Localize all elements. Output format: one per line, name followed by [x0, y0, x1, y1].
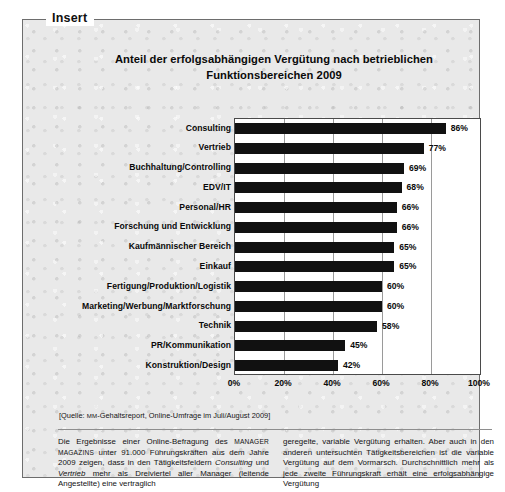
category-label: PR/Kommunikation	[46, 340, 231, 350]
body-left-italic-consulting: Consulting	[215, 458, 252, 467]
chart-bar	[235, 301, 382, 312]
category-label: Kaufmännischer Bereich	[46, 241, 231, 251]
chart-bar-row: 65%	[235, 257, 480, 277]
chart-card: Anteil der erfolgsabhängigen Vergütung n…	[46, 40, 502, 411]
body-text-columns: Die Ergebnisse einer Online-Befragung de…	[58, 437, 494, 490]
chart-bar-value-label: 66%	[402, 221, 419, 233]
chart-bar-row: 69%	[235, 159, 480, 179]
body-left-italic-vertrieb: Vertrieb	[58, 469, 85, 478]
chart-plot-area: 86%77%69%68%66%66%65%65%60%60%58%45%42%	[234, 118, 481, 375]
chart-bar	[235, 321, 377, 332]
chart-bar-value-label: 65%	[399, 241, 416, 253]
chart-bar-value-label: 45%	[350, 339, 367, 351]
body-text-right-column: geregelte, variable Vergütung erhalten. …	[283, 437, 494, 490]
chart-plot-wrapper: ConsultingVertriebBuchhaltung/Controllin…	[46, 98, 502, 398]
body-right-paragraph: geregelte, variable Vergütung erhalten. …	[283, 437, 494, 490]
category-label: Technik	[46, 320, 231, 330]
body-left-part4: mehr als Dreiviertel aller Manager (leit…	[58, 469, 269, 489]
chart-bar-value-label: 86%	[451, 122, 468, 134]
chart-bar-value-label: 68%	[407, 181, 424, 193]
chart-bar-value-label: 69%	[409, 162, 426, 174]
chart-bar-value-label: 58%	[382, 320, 399, 332]
chart-bar-row: 42%	[235, 356, 480, 376]
chart-title: Anteil der erfolgsabhängigen Vergütung n…	[46, 40, 502, 83]
source-prefix: [Quelle:	[59, 411, 87, 420]
chart-bar	[235, 123, 446, 134]
chart-bar	[235, 281, 382, 292]
section-divider	[58, 429, 492, 430]
category-label: Fertigung/Produktion/Logistik	[46, 281, 231, 291]
chart-bar-value-label: 60%	[387, 280, 404, 292]
chart-bar	[235, 242, 394, 253]
category-label: Einkauf	[46, 261, 231, 271]
insert-legend-label: Insert	[46, 11, 94, 26]
chart-bar-value-label: 42%	[343, 359, 360, 371]
chart-bar	[235, 143, 424, 154]
body-left-part3: und	[252, 458, 269, 467]
x-axis-tick-label: 100%	[468, 378, 490, 388]
chart-bar-row: 68%	[235, 178, 480, 198]
chart-title-line2: Funktionsbereichen 2009	[82, 68, 466, 84]
chart-bar-value-label: 60%	[387, 300, 404, 312]
body-text-left-column: Die Ergebnisse einer Online-Befragung de…	[58, 437, 269, 490]
source-publication: MM	[87, 412, 97, 419]
category-label: Forschung und Entwicklung	[46, 221, 231, 231]
chart-bar-row: 60%	[235, 277, 480, 297]
source-note: [Quelle: MM-Gehaltsreport, Online-Umfrag…	[59, 411, 270, 421]
chart-bar-row: 66%	[235, 198, 480, 218]
x-axis-tick-label: 20%	[274, 378, 291, 388]
x-axis-tick-label: 0%	[228, 378, 240, 388]
insert-frame: Anteil der erfolgsabhängigen Vergütung n…	[22, 19, 480, 478]
chart-bar	[235, 222, 397, 233]
category-label: Buchhaltung/Controlling	[46, 162, 231, 172]
chart-bar	[235, 202, 397, 213]
x-axis-tick-label: 60%	[372, 378, 389, 388]
chart-bar-value-label: 77%	[429, 142, 446, 154]
x-axis-ticks: 0%20%40%60%80%100%	[234, 376, 481, 392]
chart-bar-row: 65%	[235, 238, 480, 258]
category-axis-labels: ConsultingVertriebBuchhaltung/Controllin…	[46, 118, 231, 375]
chart-bar	[235, 182, 402, 193]
chart-bar-value-label: 66%	[402, 201, 419, 213]
category-label: Consulting	[46, 123, 231, 133]
body-left-part1: Die Ergebnisse einer Online-Befragung de…	[58, 437, 234, 446]
chart-title-line1: Anteil der erfolgsabhängigen Vergütung n…	[115, 53, 433, 65]
source-rest: -Gehaltsreport, Online-Umfrage im Juli/A…	[97, 411, 270, 420]
chart-bar-row: 77%	[235, 139, 480, 159]
category-label: Konstruktion/Design	[46, 360, 231, 370]
x-axis-tick-label: 40%	[323, 378, 340, 388]
chart-bar-row: 66%	[235, 218, 480, 238]
chart-bar	[235, 340, 345, 351]
chart-bar	[235, 360, 338, 371]
chart-bar	[235, 261, 394, 272]
category-label: Marketing/Werbung/Marktforschung	[46, 301, 231, 311]
category-label: Vertrieb	[46, 142, 231, 152]
chart-bar	[235, 163, 404, 174]
category-label: EDV/IT	[46, 182, 231, 192]
chart-bar-row: 45%	[235, 336, 480, 356]
chart-bar-row: 58%	[235, 317, 480, 337]
x-axis-tick-label: 80%	[421, 378, 438, 388]
chart-bar-row: 60%	[235, 297, 480, 317]
chart-bar-row: 86%	[235, 119, 480, 139]
chart-bar-value-label: 65%	[399, 260, 416, 272]
category-label: Personal/HR	[46, 202, 231, 212]
